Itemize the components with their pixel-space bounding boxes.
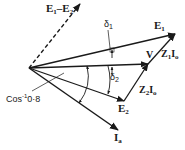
label-e2: E2 [118,103,129,116]
label-angle: Cos-10·8 [6,93,40,104]
label-sub: 1 [109,23,113,30]
label-sub: o [175,53,179,61]
label-text: V [146,49,153,60]
label-text: 0·8 [27,94,40,104]
label-v: V [146,50,153,60]
label-text: Z [161,48,168,59]
label-sub: 2 [115,76,119,83]
label-delta1: δ1 [104,20,113,30]
label-sub: 2 [70,8,74,16]
ia-vector [29,68,118,130]
label-z2i0: Z2Io [139,85,157,97]
label-text: Cos [6,94,22,104]
label-text: Z [139,84,146,95]
angle-arc [79,66,88,103]
label-e1: E1 [154,20,165,33]
label-delta2: δ2 [110,73,119,83]
label-text: –E [57,2,70,14]
label-sub: 1 [161,25,165,33]
label-sub: o [153,89,157,97]
label-sub: 2 [125,108,129,116]
label-ia: Ia [114,132,122,145]
delta1-pointer [108,30,110,48]
label-e1-minus-e2: E1–E2 [46,3,73,16]
label-sub: a [118,137,122,145]
label-z1i0: Z1Io [161,49,179,61]
v-vector [29,64,148,68]
